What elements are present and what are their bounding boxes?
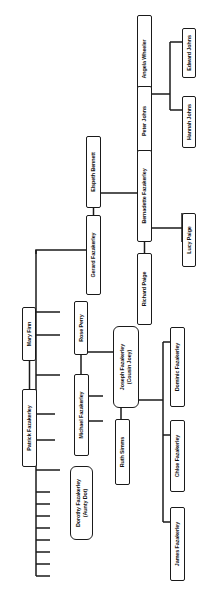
person-name-label: Peter Johns <box>141 89 148 153</box>
person-name-label: Chloe Fazakerley <box>174 423 181 489</box>
person-node-chloe-fazakerley[interactable]: Chloe Fazakerley <box>170 420 185 492</box>
person-node-richard-paige[interactable]: Richard Paige <box>137 253 152 325</box>
person-node-dominic-fazakerley[interactable]: Dominic Fazakerley <box>170 327 185 407</box>
person-node-edward-johns[interactable]: Edward Johns <box>182 28 196 78</box>
person-name-label: Elspeth Bennett <box>90 139 97 205</box>
person-name-label: Dorothy Fazakerley (Aunty Dot) <box>75 469 88 537</box>
person-node-dorothy-fazakerley[interactable]: Dorothy Fazakerley (Aunty Dot) <box>70 466 93 540</box>
person-name-label: Hannah Johns <box>186 99 193 145</box>
person-node-bernadette-fazakerley[interactable]: Bernadette Fazakerley <box>137 150 152 242</box>
person-name-label: James Fazakerley <box>174 510 181 578</box>
person-node-gerard-fazakerley[interactable]: Gerard Fazakerley <box>86 215 101 295</box>
person-name-label: Richard Paige <box>141 256 148 322</box>
person-node-mary-finn[interactable]: Mary Finn <box>22 307 36 361</box>
person-node-patrick-fazakerley[interactable]: Patrick Fazakerley <box>22 389 37 467</box>
connector-lines-layer <box>0 0 213 591</box>
person-node-elspeth-bennett[interactable]: Elspeth Bennett <box>86 136 101 208</box>
person-name-label: Dominic Fazakerley <box>174 330 181 404</box>
person-node-rose-perry[interactable]: Rose Perry <box>74 301 88 355</box>
person-name-label: Mary Finn <box>26 310 33 358</box>
person-name-label: Edward Johns <box>186 31 193 75</box>
person-node-michael-fazakerley[interactable]: Michael Fazakerley <box>74 374 89 456</box>
person-node-james-fazakerley[interactable]: James Fazakerley <box>170 507 185 581</box>
connector-gerard-to-ancestor-spine <box>36 230 94 254</box>
person-name-label: Patrick Fazakerley <box>26 392 33 464</box>
person-name-label: Michael Fazakerley <box>78 377 85 453</box>
person-node-peter-johns[interactable]: Peter Johns <box>137 86 152 156</box>
person-node-hannah-johns[interactable]: Hannah Johns <box>182 96 196 148</box>
person-name-label: Ruth Simms <box>119 422 126 482</box>
person-name-label: Joseph Fazakerley (Cousin Joey) <box>119 329 132 405</box>
person-node-ruth-simms[interactable]: Ruth Simms <box>115 419 130 485</box>
person-name-label: Lucy Paige <box>186 216 193 264</box>
person-name-label: Gerard Fazakerley <box>90 218 97 292</box>
family-tree-diagram: Angela WheelerPeter JohnsEdward JohnsHan… <box>0 0 213 591</box>
person-node-lucy-paige[interactable]: Lucy Paige <box>182 213 196 267</box>
person-name-label: Bernadette Fazakerley <box>141 153 148 239</box>
person-node-joseph-fazakerley[interactable]: Joseph Fazakerley (Cousin Joey) <box>113 326 139 408</box>
person-name-label: Rose Perry <box>78 304 85 352</box>
